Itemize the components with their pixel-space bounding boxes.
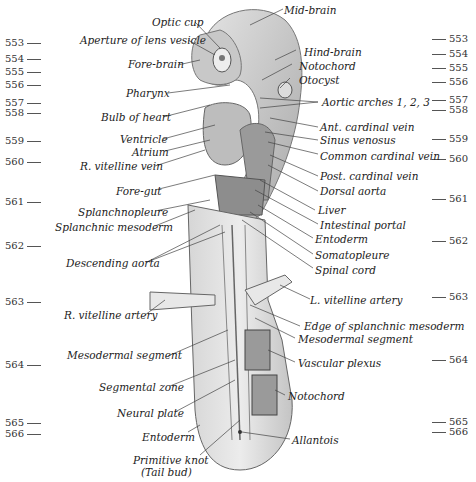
label-bulb-of-heart: Bulb of heart <box>101 111 171 123</box>
label-mesodermal-segment-left: Mesodermal segment <box>67 349 182 361</box>
label-mid-brain: Mid-brain <box>284 4 337 16</box>
left-num-559: 559 <box>5 135 41 146</box>
allantois-shape <box>238 430 242 434</box>
label-r-vitelline-vein: R. vitelline vein <box>80 160 163 172</box>
label-splanchnic-mesoderm: Splanchnic mesoderm <box>55 221 173 233</box>
label-neural-plate: Neural plate <box>117 407 184 419</box>
label-entoderm-bottom: Entoderm <box>142 431 195 443</box>
right-num-554: 554 <box>432 48 468 59</box>
label-ventricle: Ventricle <box>120 133 168 145</box>
label-sinus-venosus: Sinus venosus <box>320 134 396 146</box>
label-liver: Liver <box>318 204 346 216</box>
embryo-illustration <box>0 0 476 482</box>
label-l-vitelline-artery: L. vitelline artery <box>310 294 402 306</box>
left-num-558: 558 <box>5 107 41 118</box>
right-num-561: 561 <box>432 193 468 204</box>
label-spinal-cord: Spinal cord <box>315 264 376 276</box>
left-num-566: 566 <box>5 428 41 439</box>
label-fore-gut: Fore-gut <box>116 185 162 197</box>
left-num-556: 556 <box>5 79 41 90</box>
left-num-555: 555 <box>5 66 41 77</box>
label-entoderm-top: Entoderm <box>315 233 368 245</box>
label-segmental-zone: Segmental zone <box>99 381 184 393</box>
right-num-558: 558 <box>432 104 468 115</box>
otocyst-shape <box>278 82 292 98</box>
left-num-560: 560 <box>5 156 41 167</box>
label-notochord-bottom: Notochord <box>288 390 345 402</box>
label-somatopleure: Somatopleure <box>315 249 390 261</box>
label-aperture-lens-vesicle: Aperture of lens vesicle <box>80 34 206 46</box>
left-num-554: 554 <box>5 53 41 64</box>
left-num-564: 564 <box>5 359 41 370</box>
label-splanchnopleure: Splanchnopleure <box>78 206 168 218</box>
vascular-plexus-shape <box>245 330 270 370</box>
right-num-564: 564 <box>432 354 468 365</box>
left-num-563: 563 <box>5 296 41 307</box>
left-num-553: 553 <box>5 37 41 48</box>
label-atrium: Atrium <box>132 146 169 158</box>
label-r-vitelline-artery: R. vitelline artery <box>64 309 157 321</box>
left-num-562: 562 <box>5 240 41 251</box>
fore-gut-shape <box>215 175 265 215</box>
label-fore-brain: Fore-brain <box>128 58 184 70</box>
right-num-559: 559 <box>432 133 468 144</box>
right-num-556: 556 <box>432 76 468 87</box>
right-num-566: 566 <box>432 426 468 437</box>
right-num-562: 562 <box>432 235 468 246</box>
label-primitive-knot: Primitive knot <box>133 454 208 466</box>
label-common-cardinal-vein: Common cardinal vein <box>320 150 440 162</box>
label-aortic-arches: Aortic arches 1, 2, 3 <box>322 96 430 108</box>
label-descending-aorta: Descending aorta <box>66 257 160 269</box>
right-num-553: 553 <box>432 33 468 44</box>
embryo-diagram: 553 554 555 556 557 558 559 560 561 562 … <box>0 0 476 482</box>
label-intestinal-portal: Intestinal portal <box>320 219 406 231</box>
label-mesodermal-segment-right: Mesodermal segment <box>298 333 413 345</box>
plexus-lower-shape <box>252 375 277 415</box>
label-ant-cardinal-vein: Ant. cardinal vein <box>320 121 414 133</box>
label-post-cardinal-vein: Post. cardinal vein <box>320 170 418 182</box>
left-num-561: 561 <box>5 196 41 207</box>
label-otocyst: Otocyst <box>299 74 340 86</box>
label-allantois: Allantois <box>292 434 339 446</box>
right-num-563: 563 <box>432 291 468 302</box>
label-notochord-top: Notochord <box>299 60 356 72</box>
label-vascular-plexus: Vascular plexus <box>298 357 381 369</box>
lens-aperture-shape <box>219 55 225 61</box>
label-edge-splanchnic-mesoderm: Edge of splanchnic mesoderm <box>304 320 464 332</box>
right-num-555: 555 <box>432 62 468 73</box>
label-pharynx: Pharynx <box>126 87 170 99</box>
label-hind-brain: Hind-brain <box>304 46 362 58</box>
label-optic-cup: Optic cup <box>152 16 204 28</box>
label-tail-bud: (Tail bud) <box>141 466 192 478</box>
left-num-565: 565 <box>5 417 41 428</box>
label-dorsal-aorta: Dorsal aorta <box>320 185 386 197</box>
